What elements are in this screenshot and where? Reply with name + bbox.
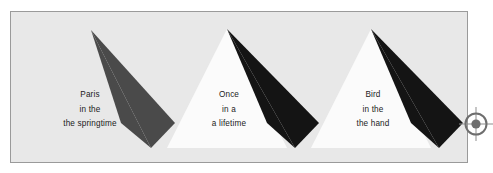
registration-target-icon — [459, 107, 493, 141]
triangles-graphic — [11, 12, 467, 162]
illustration-panel: Paris in the the springtime Once in a a … — [10, 11, 468, 163]
